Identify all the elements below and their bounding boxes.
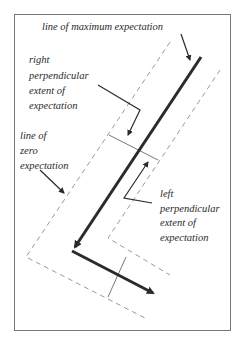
- label-zero-expectation: line of zero expectation: [19, 130, 68, 171]
- svg-text:perpendicular: perpendicular: [28, 70, 89, 81]
- svg-text:extent of: extent of: [160, 217, 198, 228]
- leader-arrows: [40, 34, 190, 203]
- label-left-extent: left perpendicular extent of expectation: [159, 188, 220, 243]
- svg-text:zero: zero: [19, 145, 38, 156]
- svg-text:perpendicular: perpendicular: [159, 203, 220, 214]
- svg-text:line of: line of: [20, 130, 49, 141]
- svg-text:expectation: expectation: [160, 232, 208, 243]
- label-right-extent: right perpendicular extent of expectatio…: [28, 54, 89, 111]
- label-max-expectation: line of maximum expectation: [42, 21, 163, 32]
- svg-text:extent of: extent of: [29, 85, 67, 96]
- max-expectation-path: [72, 57, 201, 293]
- svg-text:right: right: [29, 54, 51, 65]
- expectation-diagram: line of maximum expectation right perpen…: [0, 0, 239, 339]
- svg-text:expectation: expectation: [20, 160, 68, 171]
- svg-text:expectation: expectation: [29, 100, 77, 111]
- svg-text:left: left: [160, 188, 174, 199]
